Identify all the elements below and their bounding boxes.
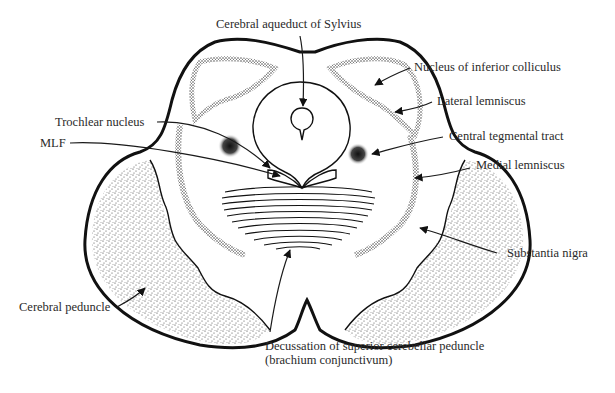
label-decussation-line2: (brachium conjunctivum) xyxy=(265,353,392,367)
leader-mlf xyxy=(70,143,280,176)
leader-aqueduct xyxy=(300,36,304,106)
inferior-colliculus-left xyxy=(192,59,275,120)
cerebral-peduncle-right xyxy=(345,160,523,344)
label-lateral-lemniscus: Lateral lemniscus xyxy=(437,94,526,108)
cerebral-aqueduct xyxy=(291,108,313,140)
label-substantia-nigra: Substantia nigra xyxy=(507,246,588,260)
decussation-fibers xyxy=(222,187,375,249)
central-tegmental-tract-right xyxy=(347,143,369,165)
label-inferior-colliculus: Nucleus of inferior colliculus xyxy=(414,60,561,74)
midbrain-diagram: Cerebral aqueduct of Sylvius Nucleus of … xyxy=(0,0,615,393)
label-aqueduct: Cerebral aqueduct of Sylvius xyxy=(216,17,362,31)
label-mlf: MLF xyxy=(40,136,66,150)
inferior-colliculus-right xyxy=(330,59,420,135)
label-cerebral-peduncle: Cerebral peduncle xyxy=(19,300,111,314)
leader-inferior-colliculus xyxy=(375,68,410,85)
label-decussation-line1: Decussation of superior cerebellar pedun… xyxy=(265,339,485,353)
leader-lateral-lemniscus xyxy=(395,102,432,112)
leader-decussation xyxy=(270,250,290,332)
label-trochlear-nucleus: Trochlear nucleus xyxy=(55,115,145,129)
label-central-tegmental-tract: Central tegmental tract xyxy=(449,129,564,143)
label-medial-lemniscus: Medial lemniscus xyxy=(476,158,565,172)
leader-central-tegmental xyxy=(372,137,443,154)
central-tegmental-tract-left xyxy=(218,134,242,158)
